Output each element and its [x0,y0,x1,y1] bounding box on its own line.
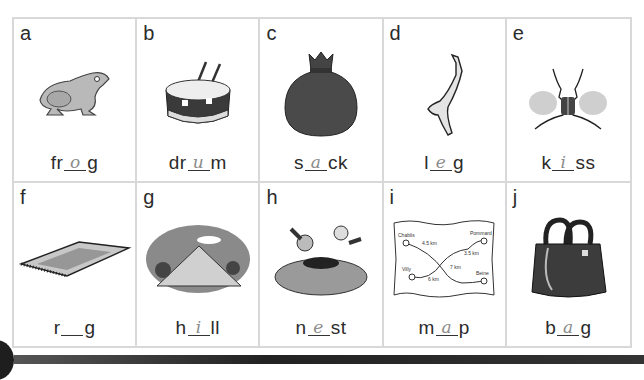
answer-blank[interactable]: o [64,156,86,171]
card-letter: j [513,186,517,209]
card-nest: h nest [260,183,383,347]
card-leg: d leg [384,19,507,183]
svg-text:6 km: 6 km [428,276,439,282]
bag-icon [526,216,610,306]
card-letter: g [143,186,154,209]
card-letter: h [266,186,277,209]
card-letter: a [20,22,31,45]
card-letter: c [266,22,276,45]
svg-text:Chablis: Chablis [398,232,415,238]
svg-text:3.5 km: 3.5 km [464,250,479,256]
answer-blank[interactable]: a [557,321,579,336]
card-letter: e [513,22,524,45]
answer-blank[interactable]: i [188,321,210,336]
card-drum: b drum [137,19,260,183]
answer-blank[interactable]: a [305,156,327,171]
word-map: map [384,317,505,339]
card-map: i Chablis 4.5 km Pommard 3.5 km Villy 6 … [384,183,507,347]
svg-text:Villy: Villy [402,266,412,272]
word-rug: rg [14,317,135,339]
svg-text:7 km: 7 km [450,264,461,270]
card-letter: d [390,22,401,45]
word-leg: leg [384,152,505,174]
card-letter: i [390,186,394,209]
sack-icon [281,50,361,144]
word-sack: sack [260,152,381,174]
answer-blank[interactable]: u [188,156,210,171]
answer-blank[interactable]: e [308,321,330,336]
card-letter: b [143,22,154,45]
answer-blank[interactable]: a [436,321,458,336]
word-hill: hill [137,317,258,339]
card-rug: f rg [14,183,137,347]
word-nest: nest [260,317,381,339]
leg-icon [422,53,466,141]
card-bag: j bag [507,183,630,347]
svg-text:Pommard: Pommard [470,230,492,236]
answer-blank[interactable]: i [552,156,574,171]
word-kiss: kiss [507,152,630,174]
answer-blank[interactable]: e [430,156,452,171]
hill-icon [145,224,251,298]
word-drum: drum [137,152,258,174]
card-frog: a frog [14,19,137,183]
card-sack: c sack [260,19,383,183]
word-card-grid: a frog b drum c sack d leg [12,17,632,348]
svg-text:4.5 km: 4.5 km [422,240,437,246]
card-kiss: e kiss [507,19,630,183]
word-bag: bag [507,317,630,339]
svg-text:Beine: Beine [476,270,489,276]
frog-icon [35,65,115,129]
kiss-icon [523,53,613,141]
map-icon: Chablis 4.5 km Pommard 3.5 km Villy 6 km… [390,219,498,303]
drum-icon [160,60,236,134]
card-letter: f [20,186,26,209]
rug-icon [17,234,133,288]
bottom-bar [14,355,644,364]
answer-blank[interactable] [61,321,83,336]
word-frog: frog [14,152,135,174]
nest-icon [271,219,371,303]
card-hill: g hill [137,183,260,347]
